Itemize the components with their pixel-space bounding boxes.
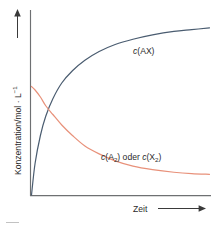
annotation-c-ax: c(AX) [133, 46, 155, 56]
kinetics-figure: Konzentration/mol · L−1 c(AX) c(A2) oder… [0, 0, 211, 227]
curve-c-ax [32, 28, 210, 195]
concentration-time-plot: Konzentration/mol · L−1 c(AX) c(A2) oder… [0, 0, 211, 227]
y-axis-label-middot: · [13, 98, 23, 106]
x-axis-arrow-icon [158, 205, 206, 212]
annotation-a2-open: (A [105, 152, 114, 162]
annotation-conjunction: oder [120, 152, 142, 162]
y-axis-arrow-icon [14, 9, 21, 38]
annotation-c-ax-body: (AX) [137, 46, 154, 56]
annotation-x2-close: ) [159, 152, 162, 162]
caption-strip [0, 219, 211, 227]
annotation-x2-open: (X [147, 152, 156, 162]
caption-rule [6, 222, 19, 224]
y-axis-label-exponent: −1 [11, 86, 18, 94]
annotation-c-a2-x2: c(A2) oder c(X2) [101, 152, 162, 163]
y-axis-label-main: Konzentration/mol [13, 106, 23, 175]
x-axis-label: Zeit [133, 204, 148, 214]
y-axis-label: Konzentration/mol · L−1 [11, 86, 22, 175]
